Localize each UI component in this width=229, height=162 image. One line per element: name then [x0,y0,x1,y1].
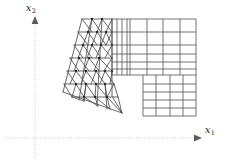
x2-axis-label-text: x [26,2,31,13]
x1-axis-label-subscript: 1 [211,129,215,137]
x1-axis-arrow-icon [194,135,202,142]
x2-axis-label-subscript: 2 [32,7,36,15]
mesh-figure [0,0,229,162]
x2-axis-label: x2 [26,2,36,13]
x1-axis-label: x1 [205,124,215,135]
x1-axis-label-text: x [205,124,210,135]
lower-quad-mesh [143,75,196,116]
triangular-mesh-region [63,19,122,113]
upper-quad-mesh [112,19,196,75]
x2-axis-arrow-icon [32,16,39,24]
